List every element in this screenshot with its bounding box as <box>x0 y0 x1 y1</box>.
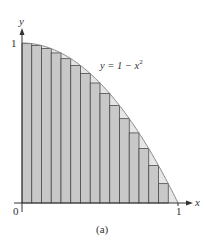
x-tick-label-1: 1 <box>176 206 182 217</box>
x-tick-label-0: 0 <box>13 206 19 217</box>
riemann-rectangle <box>32 46 42 203</box>
figure-caption: (a) <box>96 224 108 235</box>
curve-label-exponent: 2 <box>139 58 143 66</box>
riemann-rectangle <box>42 49 52 203</box>
riemann-rectangle <box>90 83 100 203</box>
curve-label-text: y = 1 − x <box>100 60 139 71</box>
riemann-rectangle <box>71 66 81 203</box>
y-axis-label: y <box>19 16 24 27</box>
riemann-rectangle <box>100 94 110 203</box>
curve-label: y = 1 − x2 <box>100 57 143 71</box>
riemann-rectangle <box>159 184 169 203</box>
x-axis-label: x <box>195 197 200 208</box>
riemann-rectangle <box>22 44 32 203</box>
riemann-rectangle <box>139 149 149 203</box>
riemann-rectangle <box>61 59 71 203</box>
riemann-rectangle <box>120 119 130 203</box>
x-axis-arrow-icon <box>186 201 193 206</box>
riemann-rectangle <box>110 106 120 203</box>
riemann-rectangle <box>81 74 91 203</box>
riemann-rectangle <box>129 133 139 203</box>
riemann-rectangle <box>149 166 159 203</box>
riemann-rectangles <box>22 44 168 203</box>
y-axis-arrow-icon <box>20 28 25 35</box>
y-tick-label-1: 1 <box>11 38 17 49</box>
riemann-rectangle <box>51 53 61 203</box>
